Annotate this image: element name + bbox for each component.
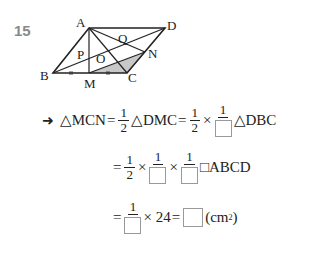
label-o: O [96,51,105,66]
answer-blank[interactable] [183,208,203,227]
label-b: B [40,68,49,83]
fraction: 12 [124,153,135,182]
fraction-blank: 1 [124,200,141,234]
answer-blank[interactable] [124,217,141,234]
answer-blank[interactable] [149,167,166,184]
answer-blank[interactable] [215,120,232,137]
solution-line-2: = 12 × 1 × 1 □ABCD [112,150,251,184]
label-q: Q [118,31,128,46]
label-a: A [76,15,86,30]
fraction-blank: 1 [149,150,166,184]
fraction: 12 [118,106,129,135]
label-p: P [77,47,84,62]
fraction-blank: 1 [181,150,198,184]
label-n: N [148,46,158,61]
label-m: M [84,76,96,91]
fraction: 12 [190,106,201,135]
parallelogram-figure: A D B C M N P O Q [0,0,200,95]
arrow-icon: ➜ [42,112,54,128]
fraction-blank: 1 [215,103,232,137]
solution-line-1: ➜ △MCN = 12 △DMC = 12 × 1 △DBC [42,103,276,137]
label-c: C [128,70,137,85]
answer-blank[interactable] [181,167,198,184]
label-d: D [167,18,176,33]
solution-line-3: = 1 × 24 = (cm2) [112,200,237,234]
